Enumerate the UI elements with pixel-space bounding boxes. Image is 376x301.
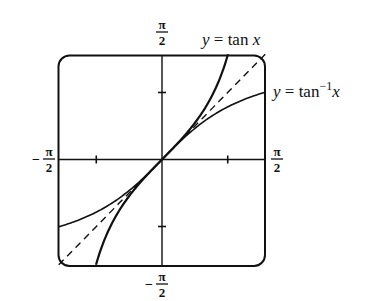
minus-glyph: −: [145, 277, 153, 292]
x-right-label: π 2: [271, 144, 283, 175]
pi-glyph: π: [158, 269, 165, 284]
minus-glyph: −: [32, 152, 40, 167]
arctan-curve-label: y = tan−1x: [271, 79, 340, 101]
two-glyph: 2: [46, 160, 53, 175]
two-glyph: 2: [274, 160, 281, 175]
pi-glyph: π: [158, 17, 165, 32]
pi-glyph: π: [45, 144, 52, 159]
pi-glyph: π: [273, 144, 280, 159]
y-top-label: π 2: [156, 17, 168, 48]
y-bottom-label: − π 2: [145, 269, 168, 300]
two-glyph: 2: [159, 285, 166, 300]
x-left-label: − π 2: [32, 144, 55, 175]
tan-curve-label: y = tan x: [200, 30, 261, 49]
two-glyph: 2: [159, 33, 166, 48]
graph-figure: π 2 − π 2 − π 2 π 2 y = tan x y = tan−1x: [0, 0, 376, 301]
